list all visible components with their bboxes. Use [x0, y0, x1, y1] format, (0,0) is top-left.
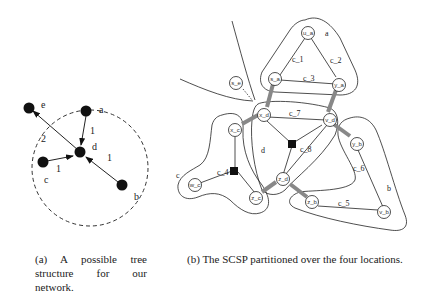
constraint-label-c5: c_5	[338, 199, 350, 208]
edge-xd-c8	[267, 121, 291, 143]
edge-weight-a-d: 1	[90, 125, 95, 136]
region-label-a: a	[325, 29, 329, 38]
node-label-d: d	[92, 141, 97, 152]
region-label-b: b	[387, 184, 391, 193]
link-sa-xd	[267, 84, 273, 107]
link-xd-xc	[242, 115, 258, 124]
figure-a-tree: e a d c b 2 1 1 1	[24, 99, 149, 226]
caption-figure-a: (a) A possible tree structure for our ne…	[35, 252, 147, 294]
node-e	[24, 103, 35, 114]
node-label-b: b	[134, 191, 139, 202]
link-zd-zb	[290, 184, 307, 197]
node-label-e: e	[41, 99, 46, 110]
node-a	[81, 106, 92, 117]
node-label-z_b: z_b	[307, 199, 317, 205]
node-label-y_a: y_a	[334, 82, 344, 88]
node-label-y_b: y_b	[352, 141, 362, 147]
edge-weight-d-e: 2	[41, 133, 46, 144]
node-d	[75, 147, 86, 158]
constraint-label-c7: c_7	[289, 109, 301, 118]
node-label-v_d: v_d	[325, 117, 335, 123]
node-label-x_d: x_d	[259, 112, 269, 118]
edge-vd-c8	[293, 125, 322, 143]
constraint-node-c8	[288, 140, 296, 148]
edge-c6	[358, 150, 383, 207]
link-zd-zc	[262, 182, 276, 192]
edge-a-d	[81, 116, 86, 145]
node-label-a: a	[99, 104, 104, 115]
link-ya-vd	[328, 90, 336, 112]
node-label-v_b: v_b	[379, 209, 389, 215]
node-label-c: c	[44, 174, 49, 185]
node-label-z_c: z_c	[251, 195, 260, 201]
caption-figure-b: (b) The SCSP partitioned over the four l…	[187, 252, 417, 266]
edge-zc-c4	[238, 172, 255, 193]
edge-b-d	[86, 157, 118, 182]
node-c	[38, 157, 49, 168]
constraint-label-c3: c_3	[303, 74, 315, 83]
constraint-label-c8: c_8	[300, 145, 312, 154]
link-se-dotted	[243, 89, 252, 100]
constraint-node-c4	[230, 167, 238, 175]
constraint-label-c1: c_1	[292, 55, 304, 64]
figure-b-labels: u_a s_a y_a s_e x_d v_d x_c y_b z_d w_c …	[176, 29, 391, 215]
node-label-x_c: x_c	[230, 127, 239, 133]
constraint-label-c2: c_2	[330, 56, 342, 65]
node-label-w_c: w_c	[189, 182, 201, 188]
constraint-label-c6: c_6	[353, 164, 365, 173]
node-b	[117, 180, 128, 191]
region-label-d: d	[261, 146, 265, 155]
node-label-s_a: s_a	[270, 76, 280, 82]
region-label-c: c	[176, 171, 180, 180]
edge-weight-c-d: 1	[56, 163, 61, 174]
edge-c-d	[47, 156, 73, 161]
edge-zd-c8	[283, 146, 292, 175]
node-label-u_a: u_a	[303, 30, 314, 36]
node-label-z_d: z_d	[278, 176, 288, 182]
edge-d-e	[33, 111, 78, 150]
figure-b-scsp	[178, 18, 407, 230]
node-label-s_e: s_e	[231, 80, 241, 86]
edge-weight-b-d: 1	[107, 152, 112, 163]
constraint-label-c4: c_4	[217, 168, 229, 177]
